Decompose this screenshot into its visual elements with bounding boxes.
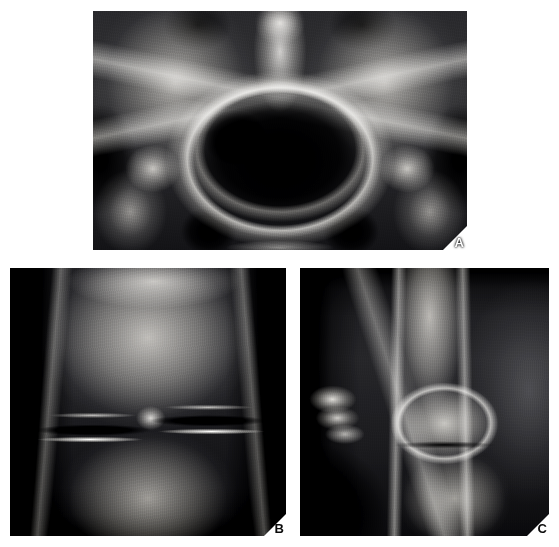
panel-label-c: C (538, 522, 547, 535)
radiograph-image-lateral-knee (300, 268, 549, 536)
panel-a-ap-pelvis[interactable]: A (93, 11, 467, 250)
panel-b-ap-knee[interactable]: B (10, 268, 286, 536)
figure-plate: A B C (0, 0, 559, 547)
panel-label-a: A (455, 236, 464, 249)
radiograph-image-ap-knee (10, 268, 286, 536)
panel-label-b: B (275, 522, 284, 535)
panel-c-lateral-knee[interactable]: C (300, 268, 549, 536)
radiograph-image-ap-pelvis (93, 11, 467, 250)
